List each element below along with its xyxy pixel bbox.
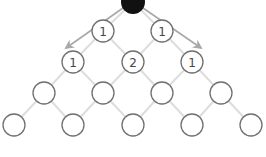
grid-nodes: 11121 [3, 0, 262, 136]
grid-node [92, 82, 114, 104]
grid-node [33, 82, 55, 104]
grid-node: 2 [122, 51, 144, 73]
node-circle [92, 82, 114, 104]
grid-node [3, 114, 25, 136]
grid-node: 1 [151, 20, 173, 42]
grid-node [181, 114, 203, 136]
pascal-grid-diagram: 11121 [0, 0, 266, 157]
node-count-label: 1 [158, 25, 166, 39]
grid-node: 1 [62, 51, 84, 73]
direction-arrows [66, 8, 201, 48]
node-count-label: 1 [69, 56, 77, 70]
node-circle [122, 114, 144, 136]
grid-node [210, 82, 232, 104]
grid-node [62, 114, 84, 136]
node-circle [210, 82, 232, 104]
grid-node [151, 82, 173, 104]
node-count-label: 1 [99, 25, 107, 39]
node-circle [181, 114, 203, 136]
grid-node [122, 114, 144, 136]
grid-node [240, 114, 262, 136]
start-node [121, 0, 145, 14]
node-circle [33, 82, 55, 104]
node-count-label: 2 [129, 56, 137, 70]
node-count-label: 1 [188, 56, 196, 70]
grid-node: 1 [181, 51, 203, 73]
node-circle [151, 82, 173, 104]
grid-node: 1 [92, 20, 114, 42]
node-circle [3, 114, 25, 136]
node-circle [62, 114, 84, 136]
node-circle [240, 114, 262, 136]
